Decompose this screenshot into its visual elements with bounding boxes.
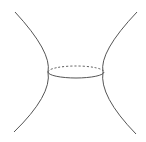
throat-ellipse-front-solid	[48, 72, 104, 78]
right-hyperbola-curve	[103, 12, 137, 134]
left-hyperbola-curve	[14, 12, 48, 132]
diagram-canvas: Hyperboloid neck with throat circle	[0, 0, 146, 142]
hyperboloid-diagram	[0, 0, 146, 142]
throat-ellipse-back-dashed	[48, 66, 104, 72]
